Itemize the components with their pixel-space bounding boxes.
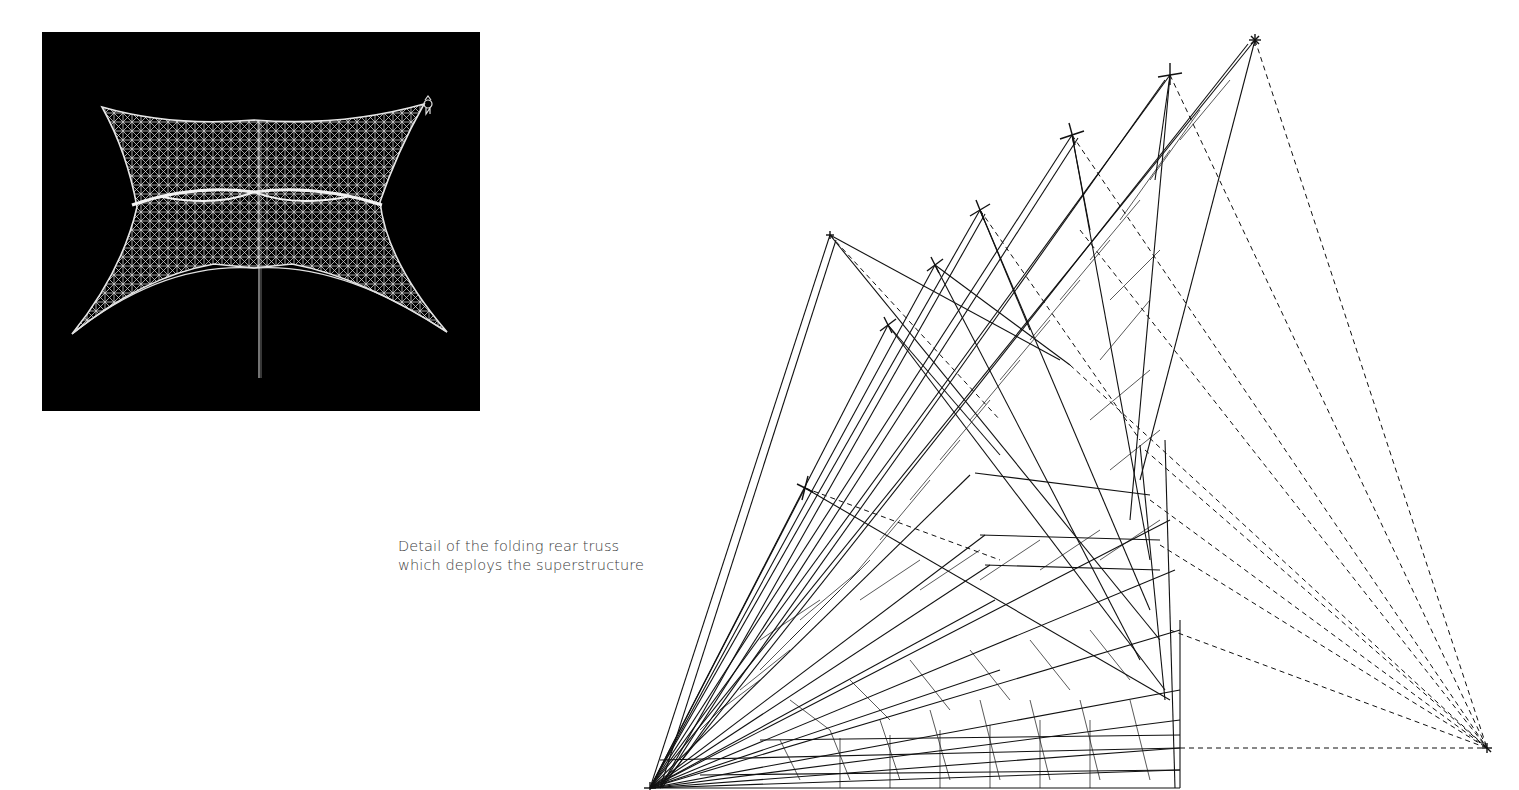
figure-caption: Detail of the folding rear truss which d… (398, 537, 644, 575)
folding-truss-graphic (620, 0, 1519, 790)
right-pivot-joint (1482, 743, 1492, 753)
wireframe-canopy-graphic (42, 32, 480, 411)
caption-line-2: which deploys the superstructure (398, 556, 644, 575)
apex-joint (1249, 34, 1261, 46)
wireframe-canopy-figure (42, 32, 480, 411)
caption-line-1: Detail of the folding rear truss (398, 537, 644, 556)
north-arrow-icon (424, 96, 432, 114)
folding-truss-figure (620, 0, 1519, 790)
